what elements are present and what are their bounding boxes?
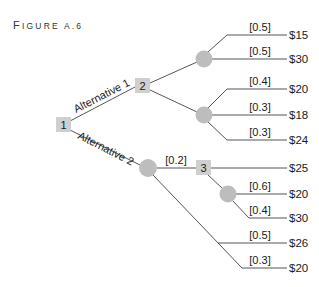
payoff-label: $18 bbox=[289, 109, 308, 121]
decision-node-3: 3 bbox=[196, 160, 211, 175]
prob-label: [0.5] bbox=[249, 21, 270, 33]
prob-label: [0.3] bbox=[249, 254, 270, 266]
edge-outcome-24 bbox=[208, 122, 287, 140]
alternative-1-label: Alternative 1 bbox=[71, 76, 131, 114]
prob-label: [0.3] bbox=[249, 126, 270, 138]
payoff-label: $20 bbox=[289, 262, 308, 274]
decision-node-2: 2 bbox=[135, 78, 150, 93]
edge-outcome-15 bbox=[208, 35, 287, 52]
edge-2-chanceB bbox=[150, 90, 197, 112]
decision-node-3-label: 3 bbox=[200, 162, 206, 174]
edge-outcome-20a bbox=[208, 89, 287, 108]
chance-node-b bbox=[196, 107, 213, 124]
edge-3-chanceD bbox=[208, 175, 222, 188]
decision-node-1: 1 bbox=[56, 117, 71, 132]
prob-label: [0.2] bbox=[165, 154, 186, 166]
prob-label: [0.4] bbox=[249, 75, 270, 87]
payoff-label: $25 bbox=[289, 162, 308, 174]
edge-2-chanceA bbox=[150, 62, 197, 83]
prob-label: [0.5] bbox=[249, 229, 270, 241]
payoff-label: $30 bbox=[289, 53, 308, 65]
payoff-label: $20 bbox=[289, 188, 308, 200]
payoff-label: $30 bbox=[289, 212, 308, 224]
chance-node-a bbox=[196, 51, 213, 68]
chance-node-c bbox=[139, 159, 157, 177]
payoff-label: $24 bbox=[289, 134, 309, 146]
decision-tree: 1 2 3 Alternative 1 Alternative 2 [0.5] … bbox=[0, 0, 319, 287]
payoff-label: $15 bbox=[289, 29, 308, 41]
prob-label: [0.5] bbox=[249, 45, 270, 57]
payoff-label: $20 bbox=[289, 83, 308, 95]
decision-node-1-label: 1 bbox=[60, 119, 66, 131]
chance-node-d bbox=[220, 186, 237, 203]
prob-label: [0.4] bbox=[249, 204, 270, 216]
payoff-label: $26 bbox=[289, 237, 308, 249]
decision-node-2-label: 2 bbox=[139, 80, 145, 92]
prob-label: [0.6] bbox=[249, 180, 270, 192]
prob-label: [0.3] bbox=[249, 101, 270, 113]
alternative-2-label: Alternative 2 bbox=[76, 129, 136, 167]
